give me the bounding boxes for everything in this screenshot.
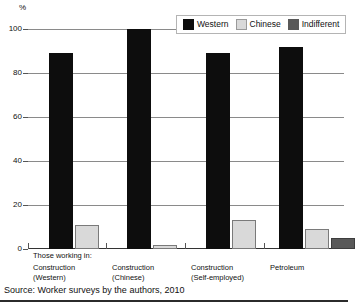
bar-group-construction-western	[28, 29, 106, 249]
legend-swatch-icon-chinese	[236, 19, 247, 30]
bar-chinese[interactable]	[75, 225, 99, 249]
category-label-3-line2: (Self-employed)	[191, 273, 244, 284]
chart-legend: Western Chinese Indifferent	[176, 15, 346, 34]
bar-group-construction-self-employed	[185, 29, 264, 249]
y-axis-unit-label: %	[19, 4, 26, 12]
y-tick-label-100: 100	[0, 25, 22, 33]
category-label-2-line1: Construction	[112, 263, 154, 274]
source-note: Source: Worker surveys by the authors, 2…	[4, 285, 184, 296]
bar-western[interactable]	[127, 29, 151, 249]
legend-label-indifferent: Indifferent	[302, 20, 340, 29]
category-label-2-line2: (Chinese)	[112, 273, 145, 284]
bar-indifferent[interactable]	[331, 238, 355, 249]
y-tick-label-0: 0	[0, 245, 22, 253]
category-label-4-line1: Petroleum	[270, 263, 304, 274]
y-tick-label-20: 20	[0, 201, 22, 209]
bar-chinese[interactable]	[305, 229, 329, 249]
bar-chinese[interactable]	[232, 220, 256, 249]
bar-western[interactable]	[49, 53, 73, 249]
bar-chinese[interactable]	[153, 245, 177, 249]
y-tick-label-60: 60	[0, 113, 22, 121]
legend-item-indifferent[interactable]: Indifferent	[288, 19, 340, 30]
legend-item-chinese[interactable]: Chinese	[236, 19, 281, 30]
bar-group-construction-chinese	[106, 29, 185, 249]
legend-label-chinese: Chinese	[250, 20, 281, 29]
legend-label-western: Western	[197, 20, 229, 29]
y-tick-label-40: 40	[0, 157, 22, 165]
y-tick-label-80: 80	[0, 69, 22, 77]
category-label-1-line1: Construction	[33, 263, 75, 274]
category-label-3-line1: Construction	[191, 263, 233, 274]
bar-western[interactable]	[206, 53, 230, 249]
category-axis-labels: Those working in: Construction (Western)…	[28, 251, 344, 281]
legend-item-western[interactable]: Western	[183, 19, 229, 30]
y-tick-mark-0	[23, 249, 28, 250]
category-label-1-line2: (Western)	[33, 273, 66, 284]
category-prefix-label: Those working in:	[33, 251, 92, 262]
plot-area: 100 80 60 40 20 0	[28, 29, 344, 249]
legend-swatch-icon-western	[183, 19, 194, 30]
bar-western[interactable]	[279, 47, 303, 249]
legend-swatch-icon-indifferent	[288, 19, 299, 30]
bar-group-petroleum	[264, 29, 342, 249]
